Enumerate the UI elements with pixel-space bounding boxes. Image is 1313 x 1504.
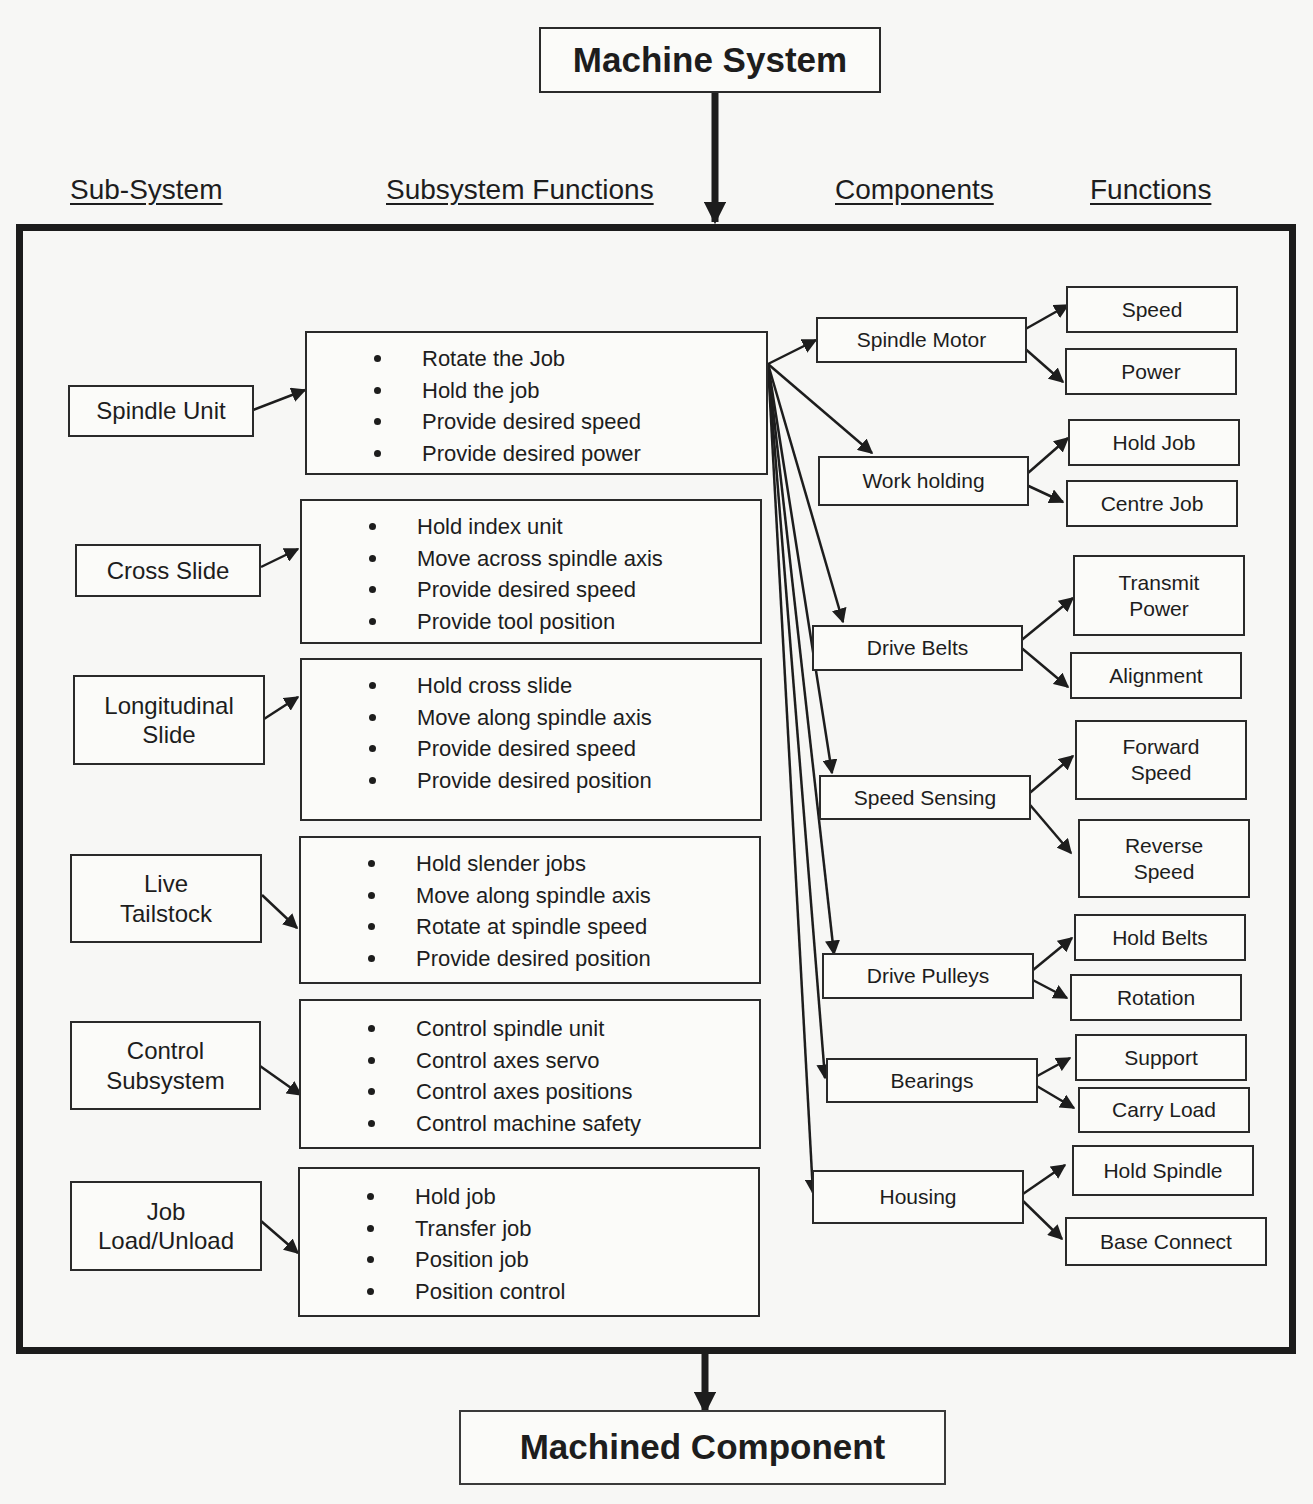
bullet-icon bbox=[369, 682, 376, 689]
subsystem-label: Live Tailstock bbox=[120, 869, 212, 928]
bullet-icon bbox=[368, 860, 375, 867]
component-drive-belts: Drive Belts bbox=[812, 625, 1023, 671]
bullet-icon bbox=[367, 1288, 374, 1295]
bullet-icon bbox=[369, 777, 376, 784]
bullet-icon bbox=[368, 1057, 375, 1064]
bullet-icon bbox=[368, 892, 375, 899]
bullet-icon bbox=[369, 714, 376, 721]
function-hold-job: Hold Job bbox=[1068, 419, 1240, 466]
function-base-connect: Base Connect bbox=[1065, 1217, 1267, 1266]
subsystem-longitudinal-slide: Longitudinal Slide bbox=[73, 675, 265, 765]
subsystem-functions-control-subsystem: Control spindle unit Control axes servo … bbox=[299, 999, 761, 1149]
subsystem-label: Longitudinal Slide bbox=[104, 691, 233, 750]
component-work-holding: Work holding bbox=[818, 456, 1029, 506]
function-transmit-power: Transmit Power bbox=[1073, 555, 1245, 636]
component-drive-pulleys: Drive Pulleys bbox=[822, 953, 1034, 999]
function-speed: Speed bbox=[1066, 286, 1238, 333]
bullet-icon bbox=[369, 523, 376, 530]
function-rotation: Rotation bbox=[1070, 974, 1242, 1021]
function-item: Provide desired power bbox=[307, 438, 766, 470]
function-item: Hold slender jobs bbox=[301, 848, 759, 880]
subsystem-functions-live-tailstock: Hold slender jobs Move along spindle axi… bbox=[299, 836, 761, 984]
component-label: Bearings bbox=[891, 1068, 974, 1094]
header-functions: Functions bbox=[1090, 174, 1211, 206]
machine-system-label: Machine System bbox=[573, 39, 847, 82]
bullet-icon bbox=[374, 355, 381, 362]
function-item: Hold the job bbox=[307, 375, 766, 407]
function-item: Rotate the Job bbox=[307, 343, 766, 375]
function-item: Move along spindle axis bbox=[302, 702, 760, 734]
function-item: Move across spindle axis bbox=[302, 543, 760, 575]
bullet-icon bbox=[368, 1120, 375, 1127]
subsystem-live-tailstock: Live Tailstock bbox=[70, 854, 262, 943]
bullet-icon bbox=[368, 955, 375, 962]
component-housing: Housing bbox=[812, 1170, 1024, 1224]
header-components: Components bbox=[835, 174, 994, 206]
header-sub-system: Sub-System bbox=[70, 174, 223, 206]
function-alignment: Alignment bbox=[1070, 652, 1242, 699]
subsystem-functions-cross-slide: Hold index unit Move across spindle axis… bbox=[300, 499, 762, 644]
bullet-icon bbox=[374, 387, 381, 394]
function-item: Hold cross slide bbox=[302, 670, 760, 702]
function-item: Control machine safety bbox=[301, 1108, 759, 1140]
bullet-icon bbox=[367, 1225, 374, 1232]
function-reverse-speed: Reverse Speed bbox=[1078, 819, 1250, 898]
function-item: Transfer job bbox=[300, 1213, 758, 1245]
bullet-icon bbox=[369, 586, 376, 593]
machine-system-box: Machine System bbox=[539, 27, 881, 93]
function-hold-spindle: Hold Spindle bbox=[1072, 1145, 1254, 1196]
bullet-icon bbox=[374, 450, 381, 457]
subsystem-label: Control Subsystem bbox=[92, 1036, 239, 1095]
function-support: Support bbox=[1075, 1034, 1247, 1081]
function-centre-job: Centre Job bbox=[1066, 480, 1238, 527]
function-item: Hold job bbox=[300, 1181, 758, 1213]
subsystem-functions-spindle-unit: Rotate the Job Hold the job Provide desi… bbox=[305, 331, 768, 475]
function-item: Rotate at spindle speed bbox=[301, 911, 759, 943]
component-label: Work holding bbox=[862, 468, 984, 494]
subsystem-functions-job-load-unload: Hold job Transfer job Position job Posit… bbox=[298, 1167, 760, 1317]
header-subsystem-functions: Subsystem Functions bbox=[386, 174, 654, 206]
function-item: Move along spindle axis bbox=[301, 880, 759, 912]
component-label: Drive Belts bbox=[867, 635, 969, 661]
bullet-icon bbox=[369, 745, 376, 752]
function-item: Position control bbox=[300, 1276, 758, 1308]
function-item: Provide desired position bbox=[301, 943, 759, 975]
subsystem-label: Job Load/Unload bbox=[98, 1197, 234, 1256]
component-label: Drive Pulleys bbox=[867, 963, 990, 989]
function-power: Power bbox=[1065, 348, 1237, 395]
component-bearings: Bearings bbox=[826, 1058, 1038, 1103]
component-spindle-motor: Spindle Motor bbox=[816, 317, 1027, 363]
function-item: Provide desired speed bbox=[302, 574, 760, 606]
machined-component-box: Machined Component bbox=[459, 1410, 946, 1485]
subsystem-control-subsystem: Control Subsystem bbox=[70, 1021, 261, 1110]
function-carry-load: Carry Load bbox=[1078, 1087, 1250, 1133]
function-item: Provide tool position bbox=[302, 606, 760, 638]
function-item: Control axes servo bbox=[301, 1045, 759, 1077]
component-label: Speed Sensing bbox=[854, 785, 996, 811]
subsystem-job-load-unload: Job Load/Unload bbox=[70, 1181, 262, 1271]
function-item: Control axes positions bbox=[301, 1076, 759, 1108]
function-item: Control spindle unit bbox=[301, 1013, 759, 1045]
bullet-icon bbox=[368, 1025, 375, 1032]
component-label: Housing bbox=[879, 1184, 956, 1210]
bullet-icon bbox=[368, 1088, 375, 1095]
subsystem-spindle-unit: Spindle Unit bbox=[68, 385, 254, 437]
bullet-icon bbox=[369, 555, 376, 562]
bullet-icon bbox=[369, 618, 376, 625]
bullet-icon bbox=[368, 923, 375, 930]
bullet-icon bbox=[367, 1193, 374, 1200]
function-item: Provide desired position bbox=[302, 765, 760, 797]
function-forward-speed: Forward Speed bbox=[1075, 720, 1247, 800]
subsystem-label: Cross Slide bbox=[107, 556, 230, 585]
function-item: Provide desired speed bbox=[307, 406, 766, 438]
bullet-icon bbox=[374, 418, 381, 425]
function-item: Provide desired speed bbox=[302, 733, 760, 765]
component-label: Spindle Motor bbox=[857, 327, 987, 353]
subsystem-label: Spindle Unit bbox=[96, 396, 225, 425]
bullet-icon bbox=[367, 1256, 374, 1263]
machined-component-label: Machined Component bbox=[520, 1426, 886, 1469]
component-speed-sensing: Speed Sensing bbox=[819, 775, 1031, 820]
subsystem-functions-longitudinal-slide: Hold cross slide Move along spindle axis… bbox=[300, 658, 762, 821]
function-item: Hold index unit bbox=[302, 511, 760, 543]
function-item: Position job bbox=[300, 1244, 758, 1276]
